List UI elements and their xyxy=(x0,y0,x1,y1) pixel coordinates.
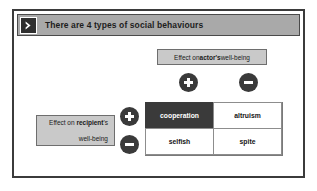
actor-minus-sign xyxy=(239,73,258,92)
matrix-cell-altruism[interactable]: altruism xyxy=(213,102,282,129)
recipient-label-suffix: 's xyxy=(104,119,109,126)
recipient-label-line2: well-being xyxy=(79,135,108,142)
actor-label-prefix: Effect on xyxy=(174,54,200,61)
slide-frame: There are 4 types of social behaviours E… xyxy=(12,9,305,178)
matrix-cell-cooperation[interactable]: cooperation xyxy=(145,102,214,129)
recipient-label-prefix: Effect on xyxy=(49,119,76,126)
actor-axis-label: Effect on actor's well-being xyxy=(157,49,267,65)
behaviour-matrix: cooperation altruism selfish spite xyxy=(145,102,283,156)
diagram-canvas: Effect on actor's well-being Effect on r… xyxy=(14,11,303,176)
actor-label-emphasis: actor's xyxy=(200,54,221,61)
recipient-label-line1: Effect on recipient's xyxy=(49,119,108,126)
recipient-plus-sign xyxy=(120,107,139,126)
recipient-axis-label: Effect on recipient's well-being xyxy=(36,115,115,146)
recipient-label-emphasis: recipient xyxy=(76,119,103,126)
actor-plus-sign xyxy=(179,73,198,92)
recipient-minus-sign xyxy=(120,135,139,154)
actor-label-suffix: well-being xyxy=(221,54,250,61)
plus-vertical-stroke xyxy=(187,78,189,87)
matrix-cell-selfish[interactable]: selfish xyxy=(145,128,214,155)
plus-vertical-stroke xyxy=(128,112,130,121)
matrix-cell-spite[interactable]: spite xyxy=(213,128,282,155)
minus-horizontal-stroke xyxy=(125,143,134,145)
minus-horizontal-stroke xyxy=(244,81,253,83)
